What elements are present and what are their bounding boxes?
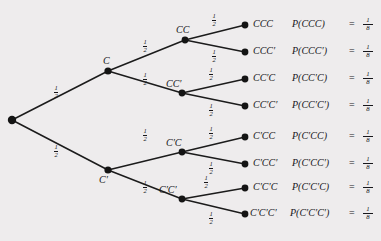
outcome-label-2: CCC′ bbox=[253, 46, 275, 56]
outcome-value-2: 1 8 bbox=[363, 44, 373, 59]
node-label-CpC: C′C bbox=[166, 138, 182, 148]
node-label-CCp: CC′ bbox=[166, 79, 182, 89]
node-label-C: C bbox=[103, 56, 110, 66]
fraction-numerator: 1 bbox=[363, 129, 373, 136]
equals-sign-5: = bbox=[349, 131, 355, 141]
fraction-numerator: 1 bbox=[143, 180, 147, 187]
edge-prob-Cp-CpCp: 1 2 bbox=[143, 180, 147, 194]
edge-prob-CpCp-leaf8: 1 2 bbox=[209, 211, 213, 225]
edge-prob-C-CC: 1 2 bbox=[143, 39, 147, 53]
edge-CCp-to-leaf3 bbox=[182, 79, 245, 93]
node-label-CC: CC bbox=[176, 25, 189, 35]
leaf-node-3[interactable] bbox=[242, 76, 249, 83]
node-label-Cp: C′ bbox=[99, 175, 108, 185]
outcome-value-8: 1 8 bbox=[363, 206, 373, 221]
fraction-numerator: 1 bbox=[363, 98, 373, 105]
fraction-denominator: 2 bbox=[143, 46, 147, 54]
fraction-numerator: 1 bbox=[143, 39, 147, 46]
leaf-node-8[interactable] bbox=[242, 211, 249, 218]
outcome-label-4: CC′C′ bbox=[253, 100, 277, 110]
outcome-prob-expr-6: P(C′CC′) bbox=[292, 158, 329, 168]
leaf-node-1[interactable] bbox=[242, 22, 249, 29]
edge-prob-CC-leaf1: 1 2 bbox=[212, 13, 216, 27]
fraction-numerator: 1 bbox=[54, 85, 58, 92]
node-CpC[interactable] bbox=[179, 149, 186, 156]
node-CpCp[interactable] bbox=[179, 196, 186, 203]
outcome-prob-expr-2: P(CCC′) bbox=[292, 46, 327, 56]
node-root[interactable] bbox=[8, 116, 16, 124]
fraction-numerator: 1 bbox=[204, 175, 208, 182]
fraction-denominator: 8 bbox=[363, 163, 373, 171]
outcome-prob-expr-5: P(C′CC) bbox=[292, 131, 327, 141]
fraction-numerator: 1 bbox=[54, 144, 58, 151]
leaf-node-4[interactable] bbox=[242, 103, 249, 110]
fraction-numerator: 1 bbox=[363, 206, 373, 213]
fraction-numerator: 1 bbox=[363, 156, 373, 163]
outcome-value-5: 1 8 bbox=[363, 129, 373, 144]
fraction-denominator: 8 bbox=[363, 24, 373, 32]
edge-prob-CCp-leaf3: 1 2 bbox=[209, 67, 213, 81]
edge-root-to-Cp bbox=[12, 120, 108, 170]
node-label-CpCp: C′C′ bbox=[159, 185, 177, 195]
edge-root-to-C bbox=[12, 71, 108, 120]
fraction-numerator: 1 bbox=[209, 103, 213, 110]
outcome-prob-expr-3: P(CC′C) bbox=[292, 73, 327, 83]
fraction-denominator: 2 bbox=[54, 151, 58, 159]
fraction-numerator: 1 bbox=[212, 13, 216, 20]
equals-sign-2: = bbox=[349, 46, 355, 56]
fraction-denominator: 8 bbox=[363, 105, 373, 113]
fraction-numerator: 1 bbox=[209, 67, 213, 74]
outcome-prob-expr-8: P(C′C′C′) bbox=[290, 208, 329, 218]
outcome-prob-expr-1: P(CCC) bbox=[292, 19, 325, 29]
outcome-label-3: CC′C bbox=[253, 73, 275, 83]
edge-prob-CpC-leaf5: 1 2 bbox=[209, 126, 213, 140]
fraction-denominator: 2 bbox=[143, 135, 147, 143]
fraction-numerator: 1 bbox=[143, 128, 147, 135]
edge-prob-Cp-CpC: 1 2 bbox=[143, 128, 147, 142]
leaf-node-7[interactable] bbox=[242, 185, 249, 192]
fraction-numerator: 1 bbox=[209, 126, 213, 133]
edge-prob-CpCp-leaf7: 1 2 bbox=[204, 175, 208, 189]
fraction-denominator: 2 bbox=[209, 74, 213, 82]
edge-CpCp-to-leaf7 bbox=[182, 188, 245, 199]
edge-prob-CCp-leaf4: 1 2 bbox=[209, 103, 213, 117]
outcome-value-3: 1 8 bbox=[363, 71, 373, 86]
outcome-value-6: 1 8 bbox=[363, 156, 373, 171]
edge-prob-root-C: 1 2 bbox=[54, 85, 58, 99]
fraction-denominator: 8 bbox=[363, 213, 373, 221]
equals-sign-8: = bbox=[349, 208, 355, 218]
edge-CpCp-to-leaf8 bbox=[182, 199, 245, 214]
fraction-numerator: 1 bbox=[363, 44, 373, 51]
fraction-denominator: 8 bbox=[363, 51, 373, 59]
edge-prob-CC-leaf2: 1 2 bbox=[212, 49, 216, 63]
diagram-canvas: C C′ CC CC′ C′C C′C′ 1 2 1 2 1 2 1 2 1 2… bbox=[0, 0, 381, 241]
node-Cp[interactable] bbox=[104, 166, 111, 173]
fraction-denominator: 2 bbox=[212, 20, 216, 28]
node-CCp[interactable] bbox=[179, 90, 186, 97]
edge-prob-root-Cp: 1 2 bbox=[54, 144, 58, 158]
outcome-label-6: C′CC′ bbox=[253, 158, 277, 168]
fraction-denominator: 2 bbox=[54, 92, 58, 100]
fraction-denominator: 2 bbox=[143, 79, 147, 87]
outcome-prob-expr-4: P(CC′C′) bbox=[292, 100, 329, 110]
edge-prob-C-CCp: 1 2 bbox=[143, 72, 147, 86]
fraction-numerator: 1 bbox=[143, 72, 147, 79]
fraction-numerator: 1 bbox=[363, 180, 373, 187]
fraction-denominator: 2 bbox=[212, 56, 216, 64]
edge-prob-CpC-leaf6: 1 2 bbox=[209, 161, 213, 175]
edge-Cp-to-CpC bbox=[108, 152, 182, 170]
leaf-node-2[interactable] bbox=[242, 49, 249, 56]
node-CC[interactable] bbox=[182, 37, 189, 44]
outcome-value-1: 1 8 bbox=[363, 17, 373, 32]
outcome-value-4: 1 8 bbox=[363, 98, 373, 113]
outcome-label-8: C′C′C′ bbox=[250, 208, 277, 218]
leaf-node-5[interactable] bbox=[242, 134, 249, 141]
equals-sign-6: = bbox=[349, 158, 355, 168]
outcome-label-7: C′C′C bbox=[253, 182, 277, 192]
node-C[interactable] bbox=[104, 67, 111, 74]
fraction-denominator: 2 bbox=[204, 182, 208, 190]
fraction-denominator: 8 bbox=[363, 187, 373, 195]
leaf-node-6[interactable] bbox=[242, 161, 249, 168]
fraction-denominator: 8 bbox=[363, 136, 373, 144]
outcome-label-5: C′CC bbox=[253, 131, 275, 141]
